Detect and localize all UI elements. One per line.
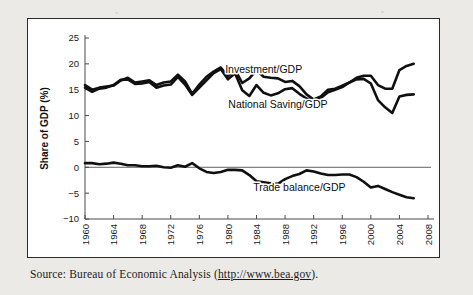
x-tick-label: 1964 [108, 224, 119, 245]
source-suffix-text: ). [311, 268, 318, 280]
y-tick-label: 10 [68, 110, 79, 121]
paper-speck [115, 12, 118, 14]
x-tick-label: 1972 [165, 224, 176, 245]
series-label: National Saving/GDP [228, 98, 327, 110]
series-label: Investment/GDP [225, 63, 302, 75]
series-label: Trade balance/GDP [253, 181, 345, 193]
y-tick-label: 20 [68, 58, 79, 69]
x-tick-label: 2000 [365, 224, 376, 245]
x-tick-label: 2004 [394, 224, 405, 245]
series-line [85, 163, 414, 199]
y-tick-label: −5 [68, 188, 79, 199]
x-tick-label: 1960 [80, 224, 91, 245]
source-prefix-text: Source: Bureau of Economic Analysis ( [30, 268, 218, 280]
x-tick-label: 1976 [194, 224, 205, 245]
x-tick-label: 1992 [308, 224, 319, 245]
y-tick-label: −10 [63, 213, 79, 224]
y-tick-label: 0 [74, 162, 79, 173]
x-tick-label: 1968 [137, 224, 148, 245]
y-tick-label: 15 [68, 84, 79, 95]
paper-speck [381, 11, 384, 13]
x-tick-label: 1984 [251, 224, 262, 245]
gdp-share-line-chart: −10−505101520251960196419681972197619801… [28, 19, 439, 257]
x-tick-label: 1996 [337, 224, 348, 245]
source-caption: Source: Bureau of Economic Analysis (htt… [30, 268, 318, 280]
chart-figure-box: −10−505101520251960196419681972197619801… [27, 18, 440, 258]
y-axis-title: Share of GDP (%) [39, 87, 50, 170]
y-tick-label: 25 [68, 32, 79, 43]
x-tick-label: 2008 [423, 224, 434, 245]
y-tick-label: 5 [74, 136, 79, 147]
x-tick-label: 1980 [223, 224, 234, 245]
source-url-link[interactable]: http://www.bea.gov [218, 268, 311, 280]
x-tick-label: 1988 [280, 224, 291, 245]
screenshot-root: −10−505101520251960196419681972197619801… [0, 0, 473, 295]
